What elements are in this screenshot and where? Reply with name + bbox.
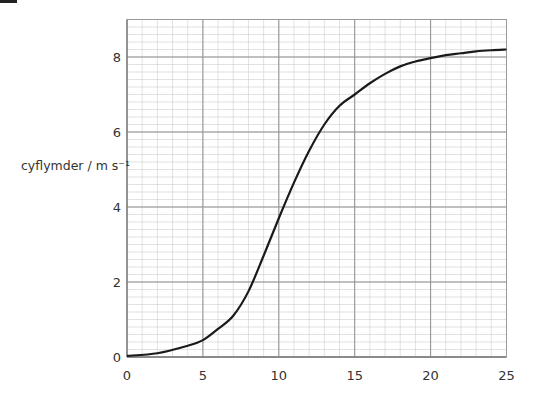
x-tick-label: 5	[199, 368, 207, 383]
x-tick-label: 25	[498, 368, 515, 383]
velocity-time-chart: 0510152025 02468	[0, 0, 537, 403]
data-curve	[127, 50, 507, 356]
x-tick-labels: 0510152025	[123, 368, 515, 383]
x-tick-label: 20	[422, 368, 439, 383]
y-tick-label: 2	[113, 275, 121, 290]
y-tick-label: 8	[113, 50, 121, 65]
y-tick-label: 0	[113, 350, 121, 365]
y-tick-labels: 02468	[113, 50, 121, 365]
x-tick-label: 10	[271, 368, 288, 383]
minor-grid	[127, 20, 507, 358]
major-grid	[127, 20, 507, 358]
axes	[127, 20, 507, 358]
y-tick-label: 6	[113, 125, 121, 140]
x-tick-label: 0	[123, 368, 131, 383]
x-tick-label: 15	[346, 368, 363, 383]
y-tick-label: 4	[113, 200, 121, 215]
y-axis-label: cyflymder / m s⁻¹	[21, 158, 130, 173]
